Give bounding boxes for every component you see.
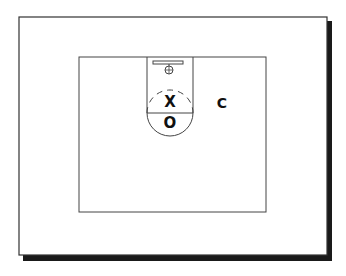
player-c-marker: C bbox=[217, 95, 227, 111]
frame-shadow-bottom bbox=[23, 255, 332, 261]
player-x-marker: X bbox=[164, 93, 176, 111]
player-o-marker: O bbox=[164, 114, 177, 132]
frame-shadow-right bbox=[327, 21, 332, 261]
court-diagram: X O C bbox=[0, 0, 346, 276]
